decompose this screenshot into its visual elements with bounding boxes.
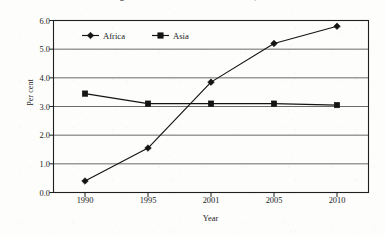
- x-tick-label: 1995: [140, 196, 157, 205]
- figure-panel: Annex figure I. 17. Share of total FDI i…: [0, 0, 385, 237]
- data-point-marker-square: [158, 33, 163, 38]
- data-point-marker-diamond: [87, 32, 94, 39]
- x-axis-tick-labels: 19901995200120052010: [0, 196, 385, 210]
- y-tick-label: 1.0: [6, 159, 50, 168]
- figure-caption-text: Annex figure I. 17. Share of total FDI i…: [0, 0, 385, 1]
- x-tick-label: 2010: [329, 196, 346, 205]
- x-tick-label: 2001: [203, 196, 220, 205]
- y-tick-label: 4.0: [6, 73, 50, 82]
- y-tick-label: 5.0: [6, 45, 50, 54]
- y-tick-label: 6.0: [6, 16, 50, 25]
- x-axis-label: Year: [53, 214, 368, 223]
- x-tick-label: 2005: [266, 196, 283, 205]
- y-tick-label: 2.0: [6, 131, 50, 140]
- y-tick-label: 3.0: [6, 102, 50, 111]
- figure-caption-clipped: Annex figure I. 17. Share of total FDI i…: [0, 0, 385, 7]
- x-tick-label: 1990: [77, 196, 94, 205]
